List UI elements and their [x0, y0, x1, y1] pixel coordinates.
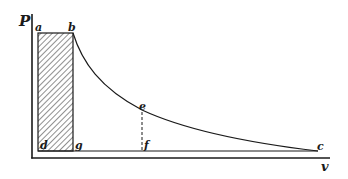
- point-label-a: a: [35, 21, 42, 34]
- axis-label-v: v: [321, 159, 329, 174]
- point-label-c: c: [317, 140, 324, 153]
- point-label-g: g: [75, 139, 83, 152]
- point-label-f: f: [143, 139, 151, 152]
- shaded-rectangle: [38, 33, 73, 151]
- point-label-d: d: [40, 139, 48, 152]
- expansion-curve: [73, 33, 318, 151]
- axis-label-p: P: [18, 12, 31, 30]
- point-label-b: b: [68, 21, 76, 34]
- pv-diagram: P v a b c d e f g: [0, 0, 348, 179]
- point-label-e: e: [139, 100, 146, 113]
